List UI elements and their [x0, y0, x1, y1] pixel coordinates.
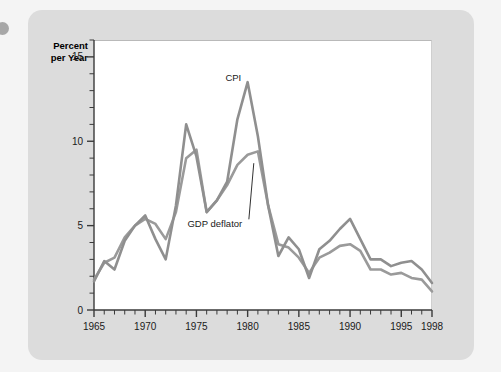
y-axis: 051015 — [72, 40, 94, 316]
x-tick-label: 1985 — [288, 321, 311, 332]
x-tick-label: 1965 — [83, 321, 106, 332]
series-label-cpi: CPI — [225, 72, 241, 83]
series-label-gdp-deflator: GDP deflator — [187, 218, 242, 229]
data-series-group — [94, 82, 432, 291]
figure-root: Percent per Year 051015 1965197019751980… — [0, 0, 501, 372]
y-tick-label: 0 — [77, 305, 83, 316]
x-tick-label: 1995 — [390, 321, 413, 332]
x-tick-label: 1975 — [185, 321, 208, 332]
y-tick-label: 5 — [77, 220, 83, 231]
x-axis: 19651970197519801985199019951998 — [83, 310, 444, 332]
x-tick-label: 1990 — [339, 321, 362, 332]
y-tick-label: 10 — [72, 136, 84, 147]
x-tick-label: 1998 — [421, 321, 444, 332]
x-tick-label: 1980 — [237, 321, 260, 332]
chart-svg: 051015 19651970197519801985199019951998 … — [0, 0, 501, 372]
y-tick-label: 15 — [72, 51, 84, 62]
x-tick-label: 1970 — [134, 321, 157, 332]
